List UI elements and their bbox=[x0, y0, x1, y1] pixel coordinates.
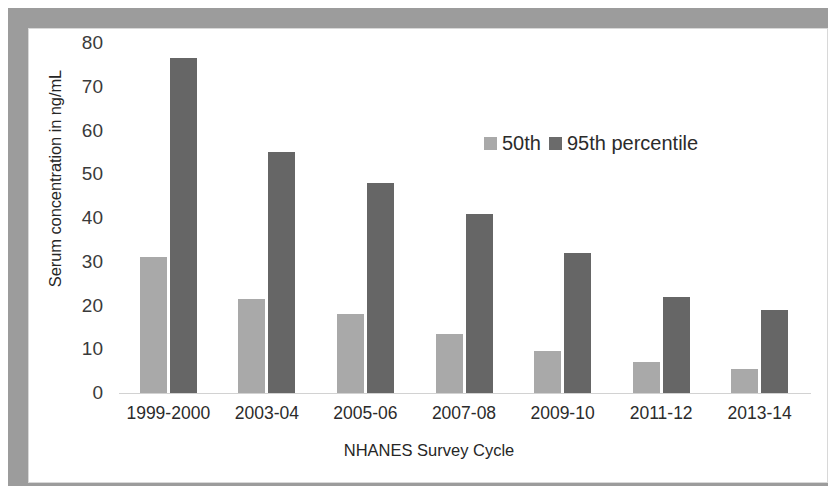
legend-swatch-50th-icon bbox=[484, 137, 497, 150]
bar-95th bbox=[761, 310, 788, 393]
legend-label-95th: 95th percentile bbox=[567, 132, 698, 155]
bar-95th bbox=[268, 152, 295, 393]
x-axis-line bbox=[119, 393, 811, 394]
legend-item-95th: 95th percentile bbox=[549, 132, 698, 155]
bar-50th bbox=[140, 257, 167, 393]
bar-group bbox=[337, 43, 394, 393]
bar-95th bbox=[466, 214, 493, 393]
bar-95th bbox=[170, 58, 197, 393]
chart-area: Serum concentration in ng/mL 80706050403… bbox=[29, 29, 829, 484]
bar-50th bbox=[534, 351, 561, 393]
bar-50th bbox=[633, 362, 660, 393]
bar-50th bbox=[731, 369, 758, 393]
bar-group bbox=[140, 43, 197, 393]
bar-group bbox=[436, 43, 493, 393]
x-axis-tick: 2013-14 bbox=[700, 403, 820, 424]
bar-group bbox=[534, 43, 591, 393]
y-axis-tick: 60 bbox=[61, 121, 103, 140]
plot-bars bbox=[119, 43, 809, 393]
legend-item-50th: 50th bbox=[484, 132, 541, 155]
chart-page: Serum concentration in ng/mL 80706050403… bbox=[0, 0, 836, 496]
y-axis-tick: 20 bbox=[61, 296, 103, 315]
bar-95th bbox=[663, 297, 690, 393]
y-axis-tick: 70 bbox=[61, 77, 103, 96]
bar-50th bbox=[238, 299, 265, 393]
x-axis-title: NHANES Survey Cycle bbox=[29, 441, 829, 460]
y-axis-tick: 40 bbox=[61, 208, 103, 227]
legend-label-50th: 50th bbox=[502, 132, 541, 155]
chart-canvas: Serum concentration in ng/mL 80706050403… bbox=[28, 28, 828, 483]
bar-50th bbox=[436, 334, 463, 393]
scan-frame-border: Serum concentration in ng/mL 80706050403… bbox=[8, 8, 828, 486]
y-axis-tick: 10 bbox=[61, 339, 103, 358]
y-axis-tick: 80 bbox=[61, 33, 103, 52]
y-axis-tick: 30 bbox=[61, 252, 103, 271]
bar-95th bbox=[564, 253, 591, 393]
chart-legend: 50th 95th percentile bbox=[484, 132, 698, 155]
bar-group bbox=[731, 43, 788, 393]
y-axis-tick: 0 bbox=[61, 383, 103, 402]
y-axis-tick: 50 bbox=[61, 164, 103, 183]
bar-group bbox=[633, 43, 690, 393]
legend-swatch-95th-icon bbox=[549, 137, 562, 150]
bar-95th bbox=[367, 183, 394, 393]
bar-group bbox=[238, 43, 295, 393]
bar-50th bbox=[337, 314, 364, 393]
